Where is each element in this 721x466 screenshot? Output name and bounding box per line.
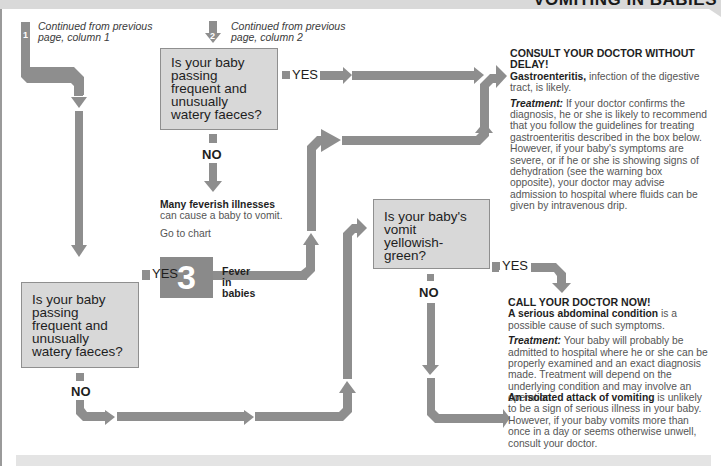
yes-square-icon — [142, 270, 150, 278]
gastro-treatment-text: If your doctor confirms the diagnosis, h… — [510, 98, 707, 212]
arrow-top-no — [204, 134, 222, 192]
outcome-isolated: An isolated attack of vomiting is unlike… — [508, 392, 708, 453]
question-middle-text: Is your baby's vomit yellowish-green? — [384, 209, 467, 263]
go-to-chart-label: Go to chart — [160, 228, 320, 239]
yes-label-left: YES — [142, 266, 178, 281]
no-label-left: NO — [71, 384, 91, 399]
yes-text: YES — [292, 67, 318, 82]
no-label-middle: NO — [419, 285, 439, 300]
yes-label-top: YES — [282, 67, 318, 82]
question-box-left[interactable]: Is your baby passing frequent and unusua… — [21, 282, 139, 368]
arrow-from-continuation-1 — [21, 22, 87, 257]
gastro-cause-bold: Gastroenteritis, — [510, 71, 586, 82]
yes-label-middle: YES — [492, 258, 528, 273]
yes-square-icon — [492, 262, 500, 270]
yes-square-icon — [282, 71, 290, 79]
outcome-gastro-heading: CONSULT YOUR DOCTOR WITHOUT DELAY! — [510, 48, 710, 71]
abdominal-treatment-label: Treatment: — [508, 335, 561, 346]
continuation-1-text: Continued from previous page, column 1 — [38, 21, 158, 43]
feverish-text: can cause a baby to vomit. — [160, 210, 320, 221]
question-box-middle[interactable]: Is your baby's vomit yellowish-green? — [373, 199, 490, 269]
question-box-top[interactable]: Is your baby passing frequent and unusua… — [160, 48, 278, 130]
yes-text: YES — [502, 258, 528, 273]
step-number-2: 2 — [210, 31, 215, 41]
outcome-gastroenteritis: CONSULT YOUR DOCTOR WITHOUT DELAY! Gastr… — [510, 48, 710, 216]
outcome-abdominal-heading: CALL YOUR DOCTOR NOW! — [508, 297, 708, 308]
feverish-bold: Many feverish illnesses — [160, 199, 275, 210]
question-left-text: Is your baby passing frequent and unusua… — [32, 292, 123, 359]
step-number-1: 1 — [23, 30, 28, 40]
yes-text: YES — [152, 266, 178, 281]
continuation-2-text: Continued from previous page, column 2 — [231, 21, 356, 43]
feverish-note: Many feverish illnesses can cause a baby… — [160, 199, 320, 239]
chart-3-title[interactable]: Fever in babies — [222, 266, 262, 299]
arrow-top-yes — [320, 67, 484, 84]
gastro-treatment-label: Treatment: — [510, 98, 563, 109]
abdominal-cause-bold: A serious abdominal condition — [508, 308, 658, 319]
isolated-cause-bold: An isolated attack of vomiting — [508, 392, 654, 403]
no-label-top: NO — [202, 147, 222, 162]
question-top-text: Is your baby passing frequent and unusua… — [171, 55, 262, 122]
